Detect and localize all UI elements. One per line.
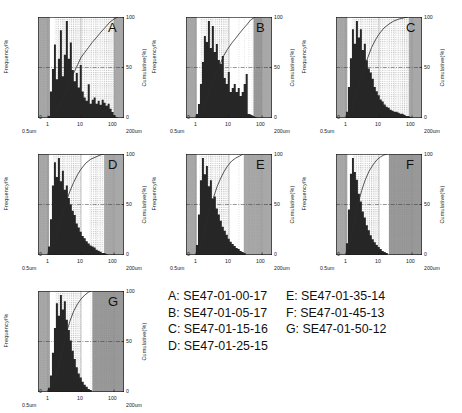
x-tick-10: 10 [375,258,381,264]
x-tick-100: 100 [406,121,415,127]
y-tick-right-100: 100 [126,14,135,20]
y-tick-right-100: 100 [424,151,433,157]
x-range-min: 0.5um [320,128,334,134]
y-axis-label-left: Frequency/% [0,143,12,244]
x-range-max: 200um [126,402,142,408]
panel-letter-e: E [256,158,265,171]
x-range-min: 0.5um [22,402,36,408]
panel-letter-b: B [256,21,265,34]
y-axis-label-left: Frequency/% [298,6,310,107]
histogram-panel-e: Frequency/%Cumulative(%)E01005001101000.… [152,143,302,279]
y-tick-left-0: 0 [28,388,42,394]
legend-column-1: A: SE47-01-00-17B: SE47-01-05-17C: SE47-… [168,288,268,354]
panel-letter-c: C [406,21,415,34]
y-tick-right-0: 0 [274,114,277,120]
legend-entry-4: D: SE47-01-25-15 [168,338,268,355]
y-axis-label-left: Frequency/% [148,143,160,244]
x-tick-1: 1 [194,258,197,264]
y-tick-right-100: 100 [126,151,135,157]
x-range-min: 0.5um [170,265,184,271]
y-axis-label-right: Cumulative(%) [286,17,298,118]
x-range-max: 200um [424,128,440,134]
y-tick-right-50: 50 [424,64,430,70]
y-tick-left-0: 0 [28,251,42,257]
x-tick-100: 100 [256,258,265,264]
x-range-min: 0.5um [170,128,184,134]
y-tick-left-0: 0 [28,114,42,120]
x-tick-1: 1 [46,121,49,127]
x-range-min: 0.5um [22,265,36,271]
y-tick-left-0: 0 [176,114,190,120]
y-tick-right-50: 50 [126,201,132,207]
x-tick-1: 1 [46,395,49,401]
panel-letter-a: A [108,21,117,34]
x-tick-10: 10 [77,121,83,127]
y-tick-right-50: 50 [424,201,430,207]
legend-entry-2: B: SE47-01-05-17 [168,305,268,322]
legend-column-2: E: SE47-01-35-14F: SE47-01-45-13G: SE47-… [286,288,387,354]
panel-letter-g: G [108,295,118,308]
y-tick-right-0: 0 [126,251,129,257]
panel-letter-f: F [406,158,414,171]
legend: A: SE47-01-00-17B: SE47-01-05-17C: SE47-… [168,288,454,354]
y-axis-label-right: Cumulative(%) [436,154,448,255]
legend-entry-3: G: SE47-01-50-12 [286,321,387,338]
y-tick-right-100: 100 [274,14,283,20]
y-axis-label-right: Cumulative(%) [138,291,150,392]
y-tick-right-50: 50 [274,201,280,207]
y-tick-right-50: 50 [126,338,132,344]
x-tick-1: 1 [344,258,347,264]
y-tick-left-0: 0 [176,251,190,257]
y-tick-right-0: 0 [126,388,129,394]
x-tick-10: 10 [77,395,83,401]
x-tick-100: 100 [256,121,265,127]
legend-entry-2: F: SE47-01-45-13 [286,305,387,322]
panel-letter-d: D [108,158,117,171]
y-tick-right-0: 0 [424,251,427,257]
y-tick-right-50: 50 [274,64,280,70]
x-tick-10: 10 [225,121,231,127]
x-tick-100: 100 [108,395,117,401]
y-tick-left-0: 0 [326,251,340,257]
x-range-min: 0.5um [320,265,334,271]
histogram-panel-a: Frequency/%Cumulative(%)A01005001101000.… [4,6,154,142]
histogram-panel-b: Frequency/%Cumulative(%)B01005001101000.… [152,6,302,142]
y-tick-right-0: 0 [424,114,427,120]
y-tick-right-0: 0 [126,114,129,120]
legend-entry-3: C: SE47-01-15-16 [168,321,268,338]
y-axis-label-left: Frequency/% [0,6,12,107]
x-range-max: 200um [126,265,142,271]
y-tick-right-100: 100 [274,151,283,157]
y-tick-left-0: 0 [326,114,340,120]
x-range-max: 200um [424,265,440,271]
y-tick-right-0: 0 [274,251,277,257]
histogram-panel-g: Frequency/%Cumulative(%)G01005001101000.… [4,280,154,413]
y-axis-label-left: Frequency/% [148,6,160,107]
x-tick-100: 100 [108,258,117,264]
histogram-panel-d: Frequency/%Cumulative(%)D01005001101000.… [4,143,154,279]
x-tick-1: 1 [344,121,347,127]
x-tick-10: 10 [225,258,231,264]
y-tick-right-100: 100 [424,14,433,20]
y-axis-label-left: Frequency/% [0,280,12,381]
x-range-max: 200um [126,128,142,134]
x-tick-1: 1 [46,258,49,264]
x-tick-10: 10 [375,121,381,127]
x-tick-1: 1 [194,121,197,127]
x-tick-100: 100 [108,121,117,127]
x-tick-10: 10 [77,258,83,264]
x-tick-100: 100 [406,258,415,264]
x-range-max: 200um [274,128,290,134]
y-tick-right-50: 50 [126,64,132,70]
y-axis-label-right: Cumulative(%) [436,17,448,118]
histogram-panel-c: Frequency/%Cumulative(%)C01005001101000.… [302,6,452,142]
legend-entry-1: E: SE47-01-35-14 [286,288,387,305]
x-range-min: 0.5um [22,128,36,134]
y-tick-right-100: 100 [126,288,135,294]
histogram-panel-f: Frequency/%Cumulative(%)F01005001101000.… [302,143,452,279]
x-range-max: 200um [274,265,290,271]
y-axis-label-left: Frequency/% [298,143,310,244]
y-axis-label-right: Cumulative(%) [286,154,298,255]
legend-entry-1: A: SE47-01-00-17 [168,288,268,305]
